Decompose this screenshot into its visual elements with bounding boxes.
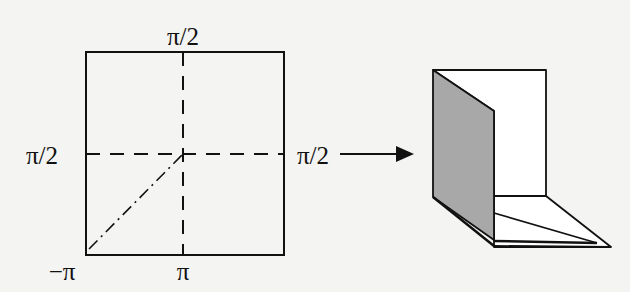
dash-dot-diagonal-line bbox=[89, 154, 183, 249]
label-bottom: π bbox=[177, 259, 190, 284]
label-left: π/2 bbox=[26, 143, 58, 168]
label-top: π/2 bbox=[167, 24, 199, 49]
arrow-right-icon bbox=[340, 146, 414, 162]
folded-sheet-figure bbox=[433, 70, 611, 247]
floor-panel bbox=[494, 196, 611, 247]
label-right: π/2 bbox=[297, 143, 329, 168]
label-bottom-left: −π bbox=[49, 259, 76, 284]
